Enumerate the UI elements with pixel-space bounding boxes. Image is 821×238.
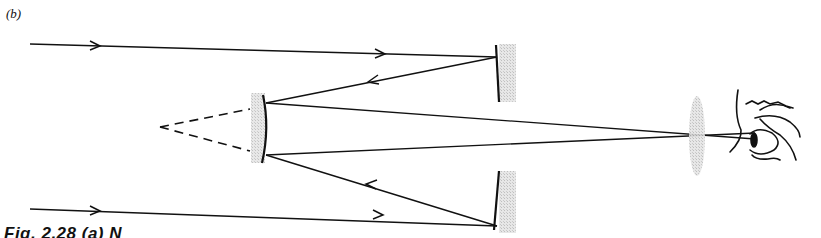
eyepiece-lens <box>689 96 705 176</box>
secondary-mirror <box>251 93 266 163</box>
reflected-ray-top <box>266 57 497 103</box>
eye-icon <box>730 90 800 160</box>
primary-mirror-bottom <box>494 171 516 233</box>
figure-caption: Fig. 2.28 (a) N <box>4 224 122 238</box>
incoming-ray-bottom <box>30 206 497 226</box>
primary-mirror-top <box>496 44 516 102</box>
telescope-diagram: (b) Fig. 2.28 (a) N <box>0 0 821 238</box>
incoming-ray-top <box>30 41 497 58</box>
converging-rays <box>266 103 755 155</box>
virtual-focus-lines <box>160 109 250 151</box>
panel-label: (b) <box>6 6 21 22</box>
